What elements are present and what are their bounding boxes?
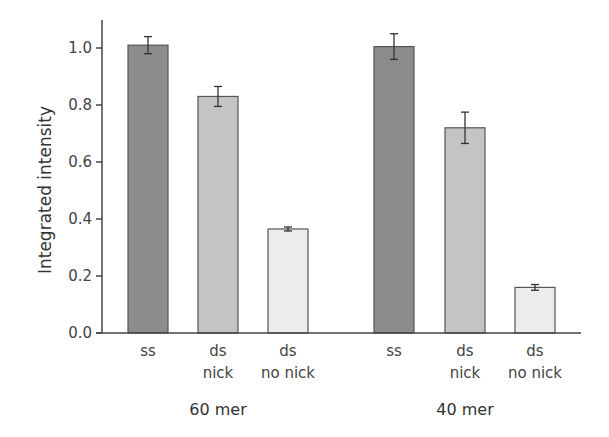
y-tick-label: 0.0 [68,324,92,342]
y-tick-label: 0.4 [68,210,92,228]
x-category-label: ss [386,342,402,360]
x-category-label: ds [209,342,227,360]
x-category-labels: ssdsnickdsno nickssdsnickdsno nick [140,342,562,382]
x-category-label: no nick [261,364,315,382]
group-label: 60 mer [189,400,247,419]
x-category-label: ds [456,342,474,360]
bar-rect [128,45,168,333]
bar-ss-40-mer [374,34,414,333]
y-tick-label: 1.0 [68,39,92,57]
axes-layer [96,20,581,333]
bar-rect [374,47,414,333]
x-category-label: ss [140,342,156,360]
y-ticks: 0.00.20.40.60.81.0 [68,39,102,342]
bar-rect [198,96,238,333]
x-category-label: ds [526,342,544,360]
x-category-label: no nick [508,364,562,382]
group-labels: 60 mer40 mer [189,400,494,419]
bar-rect [268,229,308,333]
y-axis-title: Integrated intensity [35,106,55,274]
bar-chart: 0.00.20.40.60.81.0 ssdsnickdsno nickssds… [0,0,609,437]
bar-rect [445,128,485,333]
y-tick-label: 0.6 [68,153,92,171]
x-category-label: nick [203,364,234,382]
bar-ds-nick-40-mer [445,112,485,333]
bar-ss-60-mer [128,37,168,333]
bars-layer [128,34,555,333]
bar-ds-no-nick-60-mer [268,227,308,333]
y-tick-label: 0.2 [68,267,92,285]
group-label: 40 mer [436,400,494,419]
bar-rect [515,287,555,333]
x-category-label: nick [450,364,481,382]
bar-ds-nick-60-mer [198,86,238,333]
y-tick-label: 0.8 [68,96,92,114]
bar-ds-no-nick-40-mer [515,285,555,333]
x-category-label: ds [279,342,297,360]
